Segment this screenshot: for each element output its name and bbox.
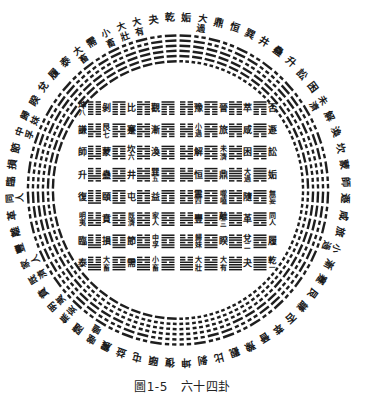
ring-hexagram-label: 夬 [148, 12, 160, 26]
yin-line-left [198, 317, 202, 318]
yin-line-left [46, 158, 47, 162]
yin-line-right [301, 132, 303, 136]
square-hexagram-name: 渙 [151, 146, 161, 157]
yin-line-left [319, 221, 320, 225]
square-hexagram-name: 否 [267, 103, 277, 113]
yang-line [71, 89, 78, 97]
yang-line [257, 303, 266, 310]
yang-line [126, 52, 136, 56]
yang-line [36, 148, 39, 159]
yin-line-right [282, 291, 285, 294]
yin-line-right [207, 330, 211, 331]
yin-line-right [215, 45, 219, 46]
ring-hexagram-label: 革 [5, 209, 18, 221]
yang-line [166, 46, 177, 47]
square-hexagram-name: 妄 [269, 196, 276, 205]
square-cell: 恒 [180, 169, 203, 181]
ring-hexagram-label: 蒙 [338, 159, 351, 171]
ring-hexagram-label: 乾 [165, 11, 176, 24]
square-hexagram [113, 235, 126, 247]
yang-line [107, 73, 116, 78]
square-hexagram [229, 257, 242, 269]
yang-line [143, 314, 152, 316]
ring-label-char: 萃 [271, 321, 286, 337]
yin-line-right [243, 310, 246, 312]
yin-line-left [146, 325, 150, 326]
yang-line [136, 39, 147, 42]
ring-hexagram [73, 72, 98, 99]
yin-line-right [144, 44, 148, 45]
yin-line-left [249, 307, 252, 309]
yin-line-right [286, 125, 288, 128]
yin-line-left [74, 271, 76, 274]
yang-line [143, 64, 152, 66]
yin-line-right [46, 264, 48, 268]
ring-hexagram-label: 師 [340, 176, 352, 187]
ring-hexagram [191, 36, 206, 63]
yin-line-left [66, 277, 68, 280]
yang-line [303, 152, 305, 162]
yin-line-right [40, 163, 41, 167]
yin-line-right [63, 289, 66, 292]
square-hexagram [162, 235, 175, 247]
yin-line-right [153, 327, 157, 328]
yin-line-right [314, 125, 316, 129]
ring-hexagram-label: 鼎 [213, 15, 225, 29]
yin-line-left [249, 84, 252, 86]
yang-line [291, 257, 296, 266]
yin-line-left [41, 156, 42, 160]
yin-line-left [201, 337, 205, 338]
figure-caption: 圖1-5六十四卦 [0, 377, 365, 394]
yin-line-left [289, 130, 291, 133]
square-hexagram [229, 169, 242, 181]
square-hexagram-name: 夬 [243, 257, 253, 268]
ring-hexagram [109, 304, 130, 332]
yin-line-left [303, 138, 304, 142]
yin-line-left [275, 93, 278, 96]
yin-line-right [287, 108, 289, 111]
yang-line [206, 54, 216, 57]
ring-label-char: 剝 [197, 354, 208, 368]
yin-line-right [49, 247, 51, 251]
ring-label-char: 旅 [334, 226, 348, 240]
yin-line-left [307, 121, 309, 125]
yin-line-left [316, 163, 317, 167]
square-hexagram [180, 235, 193, 247]
yang-line [139, 49, 149, 52]
square-hexagram-grid: 坤八剝比觀豫晉萃否謙艮七蹇漸小過旅咸遯師蒙坎六渙解未濟困訟升蠱井巽五恒鼎大過姤復… [77, 100, 278, 272]
ring-hexagram-label: 小畜 [99, 25, 118, 50]
yin-line-right [227, 307, 230, 309]
yang-line [90, 282, 97, 289]
yin-line-left [204, 64, 207, 65]
ring-hexagram [63, 272, 89, 298]
yin-line-left [135, 317, 139, 318]
ring-hexagram [29, 203, 55, 219]
yin-line-right [317, 243, 318, 247]
square-cell: 歸妹 [180, 233, 203, 249]
square-hexagram-name: 萃 [243, 102, 252, 113]
yin-line-right [33, 147, 34, 151]
square-hexagram [88, 213, 101, 225]
square-hexagram-name: 觀 [151, 102, 160, 113]
yin-line-left [115, 330, 119, 332]
square-cell: 師 [78, 146, 102, 158]
yang-line [194, 41, 205, 43]
square-hexagram-name: 臨 [78, 235, 87, 246]
square-hexagram-name: 畜 [152, 263, 159, 272]
square-hexagram [254, 124, 267, 136]
ring-hexagram-label: 臨 [4, 176, 16, 187]
yang-line [62, 100, 68, 109]
yang-line [166, 51, 176, 52]
yin-line-right [289, 246, 291, 249]
yin-line-right [140, 324, 144, 325]
yin-line-left [235, 309, 238, 311]
ring-label-char: 離 [8, 226, 22, 239]
square-cell: 井 [127, 169, 151, 181]
ring-label-char: 復 [164, 356, 176, 369]
yang-line [87, 87, 94, 94]
yin-line-left [87, 71, 90, 74]
square-hexagram [205, 191, 218, 203]
yang-line [49, 165, 50, 175]
yin-line-right [278, 288, 281, 291]
ring-hexagram [165, 35, 178, 61]
